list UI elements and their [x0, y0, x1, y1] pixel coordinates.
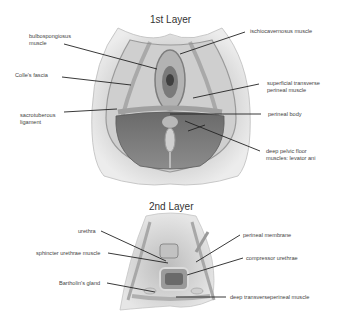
illustration-layer — [0, 0, 337, 328]
label-colles-fascia: Colle's fascia — [15, 72, 48, 79]
label-deep-transverse: deep transverseperineal muscle — [230, 294, 309, 301]
label-ischiocavernosus: ischiocavernosus muscle — [250, 28, 312, 35]
label-bartholins-gland: Bartholin's gland — [59, 280, 100, 287]
label-deep-pelvic-floor: deep pelvic floor muscles: levator ani — [266, 148, 315, 162]
label-compressor-urethrae: compressor urethrae — [246, 255, 298, 262]
label-sacrotuberous: sacrotuberous ligament — [20, 112, 55, 126]
label-perineal-body: perineal body — [268, 111, 302, 118]
label-sphincter-urethrae: sphincter urethrae muscle — [36, 250, 100, 257]
layer2-illustration — [120, 213, 214, 310]
label-bulbospongiosus: bulbospongiosus muscle — [29, 33, 71, 47]
label-urethra: urethra — [78, 228, 96, 235]
label-superficial-transverse: superficial transverse perineal muscle — [267, 80, 320, 94]
layer1-illustration — [92, 28, 251, 185]
layer1-title: 1st Layer — [150, 14, 191, 25]
anatomy-figure: 1st Layer 2nd Layer bulbospongiosus musc… — [0, 0, 337, 328]
label-perineal-membrane: perineal membrane — [243, 232, 291, 239]
layer2-title: 2nd Layer — [149, 201, 193, 212]
